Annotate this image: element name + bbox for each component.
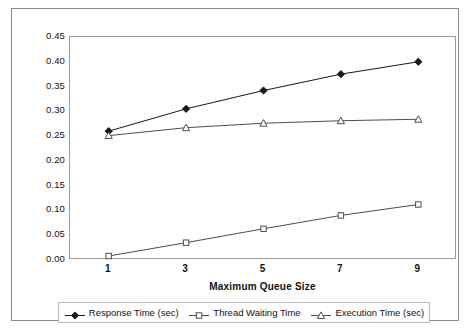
series-marker (106, 253, 111, 258)
x-axis-tick-label: 9 (402, 263, 432, 275)
series-marker (415, 58, 422, 65)
y-axis-tick-label: 0.10 (29, 204, 65, 214)
series-marker (337, 71, 344, 78)
y-axis-tick-label: 0.25 (29, 130, 65, 140)
plot-series-svg (70, 37, 457, 260)
series-marker (260, 87, 267, 94)
x-axis-tick-label: 5 (248, 263, 278, 275)
legend-item[interactable]: Response Time (sec) (64, 307, 179, 318)
x-axis-tick-label: 7 (325, 263, 355, 275)
legend-item[interactable]: Execution Time (sec) (310, 307, 424, 318)
y-axis-tick-label: 0.20 (29, 155, 65, 165)
legend-item[interactable]: Thread Waiting Time (188, 307, 300, 318)
chart-legend: Response Time (sec)Thread Waiting TimeEx… (58, 302, 430, 323)
figure-frame: 0.450.400.350.300.250.200.150.100.050.00… (11, 8, 459, 321)
y-axis-tick-label: 0.40 (29, 56, 65, 66)
legend-marker-open-square-icon (188, 307, 210, 318)
x-axis-tick-labels: 13579 (69, 263, 456, 277)
chart-figure: 0.450.400.350.300.250.200.150.100.050.00… (0, 0, 470, 331)
plot-area (69, 36, 456, 259)
y-axis-tick-label: 0.05 (29, 229, 65, 239)
x-axis-title: Maximum Queue Size (69, 281, 456, 292)
series-marker (416, 202, 421, 207)
y-axis-tick-label: 0.45 (29, 31, 65, 41)
y-axis-tick-label: 0.35 (29, 81, 65, 91)
series-marker (183, 240, 188, 245)
x-axis-tick-label: 3 (170, 263, 200, 275)
y-axis-tick-label: 0.15 (29, 180, 65, 190)
y-axis-tick-label: 0.30 (29, 105, 65, 115)
legend-label: Execution Time (sec) (335, 307, 424, 318)
legend-label: Response Time (sec) (89, 307, 179, 318)
series-marker (183, 105, 190, 112)
series-marker (338, 213, 343, 218)
y-axis-tick-label: 0.00 (29, 254, 65, 264)
x-axis-tick-label: 1 (93, 263, 123, 275)
series-marker (261, 226, 266, 231)
legend-marker-open-triangle-icon (310, 307, 332, 318)
legend-marker-filled-diamond-icon (64, 307, 86, 318)
legend-label: Thread Waiting Time (213, 307, 300, 318)
y-axis-tick-labels: 0.450.400.350.300.250.200.150.100.050.00 (24, 36, 65, 259)
